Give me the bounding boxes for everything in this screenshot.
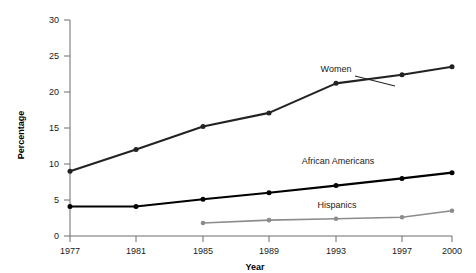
- series-women: [68, 64, 455, 173]
- series-label-hispanics: Hispanics: [317, 200, 357, 210]
- data-point: [267, 218, 272, 223]
- y-tick-label-25: 25: [49, 51, 59, 61]
- data-point: [68, 204, 73, 209]
- x-tick-label-1977: 1977: [60, 246, 80, 256]
- x-axis-tick-labels: 1977 1981 1985 1989 1993 1997 2000: [60, 246, 462, 256]
- data-point: [450, 209, 455, 214]
- series-hispanics: [201, 209, 455, 226]
- data-point: [450, 170, 455, 175]
- series-african-americans: [68, 170, 455, 209]
- data-point: [267, 190, 272, 195]
- y-tick-label-0: 0: [54, 231, 59, 241]
- series-label-women: Women: [321, 64, 352, 74]
- data-point: [334, 183, 339, 188]
- y-tick-label-15: 15: [49, 123, 59, 133]
- data-point: [201, 197, 206, 202]
- data-point: [400, 72, 405, 77]
- data-point: [450, 64, 455, 69]
- data-point: [201, 124, 206, 129]
- data-point: [267, 110, 272, 115]
- series-layer: [68, 64, 455, 225]
- y-tick-label-5: 5: [54, 195, 59, 205]
- data-point: [400, 176, 405, 181]
- data-point: [201, 221, 206, 226]
- y-axis-title: Percentage: [16, 111, 26, 160]
- data-point: [334, 81, 339, 86]
- series-line: [203, 211, 452, 223]
- chart-canvas: 0 5 10 15 20 25 30 1977 1981 1985 1989 1…: [0, 0, 476, 273]
- y-tick-label-10: 10: [49, 159, 59, 169]
- y-tick-label-20: 20: [49, 87, 59, 97]
- data-point: [68, 169, 73, 174]
- x-tick-label-1993: 1993: [326, 246, 346, 256]
- data-point: [134, 147, 139, 152]
- x-tick-label-2000: 2000: [442, 246, 462, 256]
- data-point: [334, 216, 339, 221]
- series-label-african-americans: African Americans: [302, 156, 375, 166]
- x-tick-label-1989: 1989: [259, 246, 279, 256]
- x-tick-label-1997: 1997: [392, 246, 412, 256]
- data-point: [400, 215, 405, 220]
- x-axis-ticks: [70, 236, 452, 242]
- y-axis-ticks: [64, 20, 70, 236]
- y-tick-label-30: 30: [49, 15, 59, 25]
- line-chart: 0 5 10 15 20 25 30 1977 1981 1985 1989 1…: [0, 0, 476, 273]
- x-tick-label-1985: 1985: [193, 246, 213, 256]
- series-line: [70, 173, 452, 207]
- x-axis-title: Year: [245, 262, 265, 272]
- y-axis-tick-labels: 0 5 10 15 20 25 30: [49, 15, 59, 241]
- x-tick-label-1981: 1981: [126, 246, 146, 256]
- data-point: [134, 204, 139, 209]
- series-line: [70, 67, 452, 171]
